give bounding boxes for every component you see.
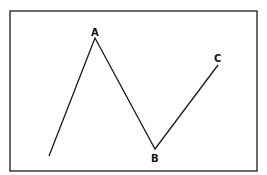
point-label-a: A	[91, 27, 99, 38]
point-label-c: C	[214, 53, 221, 64]
zigzag-diagram: A B C	[0, 0, 267, 175]
point-label-b: B	[151, 153, 159, 164]
zigzag-line	[49, 38, 218, 156]
frame-border	[10, 11, 257, 171]
